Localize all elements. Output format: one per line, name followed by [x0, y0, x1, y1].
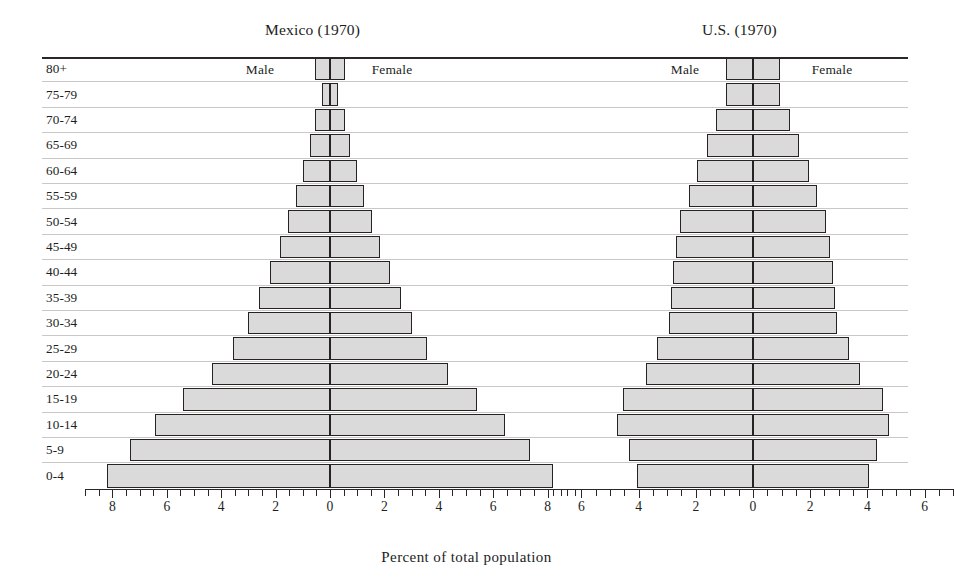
age-group-label: 70-74 [46, 112, 77, 128]
axis-tick-major [867, 489, 868, 498]
pyramid-bar [183, 388, 330, 410]
axis-tick-major [581, 489, 582, 498]
axis-tick-major [276, 489, 277, 498]
axis-tick-minor [710, 489, 711, 496]
axis-tick-major [167, 489, 168, 498]
age-group-label: 80+ [46, 61, 67, 77]
pyramid-bar [753, 312, 837, 334]
axis-tick-minor [896, 489, 897, 496]
x-axis-mexico: 864202468 [85, 489, 575, 519]
axis-tick-major [330, 489, 331, 498]
axis-tick-major [384, 489, 385, 498]
pyramid-bar [310, 134, 330, 156]
axis-tick-label: 6 [921, 499, 928, 515]
axis-tick-label: 6 [163, 499, 170, 515]
pyramid-bar [753, 210, 826, 232]
age-group-label: 65-69 [46, 137, 77, 153]
pyramid-bar [673, 261, 753, 283]
pyramid-bar [623, 388, 753, 410]
age-row: 35-39 [42, 286, 908, 311]
axis-tick-minor [553, 489, 554, 496]
pyramid-bar [753, 58, 780, 80]
pyramid-bar [753, 464, 869, 487]
pyramid-bar [233, 337, 330, 359]
axis-tick-minor [85, 489, 86, 496]
axis-tick-minor [140, 489, 141, 496]
axis-tick-minor [853, 489, 854, 496]
pyramid-bar [753, 236, 830, 258]
axis-tick-major [639, 489, 640, 498]
age-row: 5-9 [42, 438, 908, 463]
axis-tick-label: 0 [327, 499, 334, 515]
axis-tick-minor [839, 489, 840, 496]
pyramid-bar [248, 312, 330, 334]
pyramid-bar [676, 236, 753, 258]
age-group-label: 10-14 [46, 417, 77, 433]
axis-tick-major [753, 489, 754, 498]
age-group-label: 35-39 [46, 290, 77, 306]
age-group-label: 60-64 [46, 163, 77, 179]
axis-tick-label: 2 [272, 499, 279, 515]
pyramid-bar [315, 109, 330, 131]
pyramid-bar [753, 185, 817, 207]
axis-tick-major [925, 489, 926, 498]
age-row: 70-74 [42, 108, 908, 133]
axis-tick-minor [782, 489, 783, 496]
pyramid-bar [330, 134, 350, 156]
pyramid-bar [753, 160, 809, 182]
axis-tick-minor [796, 489, 797, 496]
age-group-label: 30-34 [46, 315, 77, 331]
age-group-label: 0-4 [46, 468, 64, 484]
pyramid-bar [697, 160, 753, 182]
pyramid-bar [330, 210, 372, 232]
pyramid-bar [753, 388, 883, 410]
axis-tick-minor [724, 489, 725, 496]
axis-tick-minor [344, 489, 345, 496]
axis-tick-minor [425, 489, 426, 496]
axis-tick-minor [567, 489, 568, 496]
axis-tick-minor [534, 489, 535, 496]
sex-label-male: Male [671, 62, 699, 78]
age-group-label: 45-49 [46, 239, 77, 255]
pyramid-bar [288, 210, 330, 232]
pyramid-bar [330, 337, 427, 359]
axis-tick-minor [99, 489, 100, 496]
age-group-label: 15-19 [46, 391, 77, 407]
pyramid-bar [669, 312, 753, 334]
pyramid-bar [716, 109, 753, 131]
pyramid-bar [330, 185, 364, 207]
pyramid-bar [680, 210, 753, 232]
panel-title-mexico: Mexico (1970) [265, 21, 360, 39]
sex-label-female: Female [372, 62, 413, 78]
age-group-label: 25-29 [46, 341, 77, 357]
axis-tick-major [548, 489, 549, 498]
pyramid-bar [330, 388, 477, 410]
pyramid-bar [637, 464, 753, 487]
age-row: 55-59 [42, 184, 908, 209]
axis-tick-minor [466, 489, 467, 496]
axis-tick-label: 2 [381, 499, 388, 515]
pyramid-bar [130, 439, 330, 461]
axis-tick-label: 4 [635, 499, 642, 515]
axis-tick-major [696, 489, 697, 498]
pyramid-bar [657, 337, 753, 359]
x-axis-label: Percent of total population [0, 549, 933, 566]
age-group-label: 50-54 [46, 214, 77, 230]
axis-tick-minor [767, 489, 768, 496]
axis-tick-minor [357, 489, 358, 496]
pyramid-bar [330, 363, 448, 385]
axis-tick-label: 6 [490, 499, 497, 515]
axis-tick-minor [194, 489, 195, 496]
age-row: 25-29 [42, 336, 908, 361]
pyramid-bar [629, 439, 753, 461]
axis-tick-minor [653, 489, 654, 496]
pyramid-bar [689, 185, 753, 207]
axis-tick-minor [303, 489, 304, 496]
pyramid-bar [726, 58, 753, 80]
axis-tick-minor [667, 489, 668, 496]
pyramid-bar [315, 58, 330, 80]
age-group-label: 55-59 [46, 188, 77, 204]
axis-tick-label: 4 [218, 499, 225, 515]
age-row: 45-49 [42, 235, 908, 260]
